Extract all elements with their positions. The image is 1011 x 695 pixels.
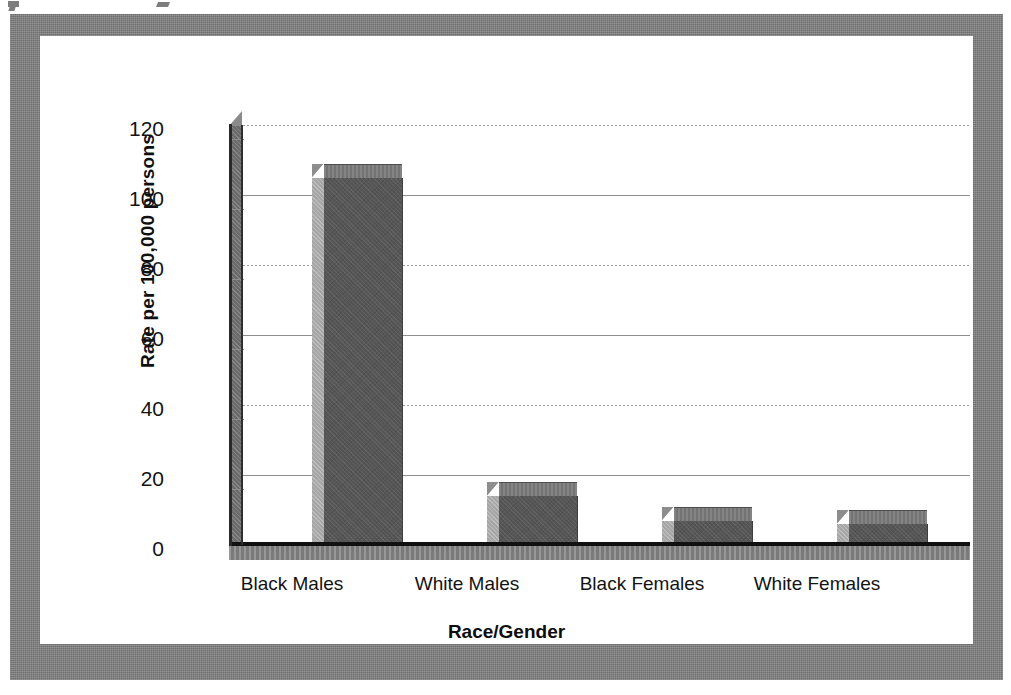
y-tick-label: 40 (110, 398, 164, 419)
bar-white-females[interactable] (849, 36, 927, 545)
bar-front-face (499, 496, 578, 545)
back-wall-left-edge (241, 125, 243, 545)
plot-area (190, 36, 973, 644)
scan-artifact-icon (156, 2, 170, 7)
y-tick-label: 120 (110, 118, 164, 139)
figure-page: Rate per 100,000 persons 0 20 40 60 80 1… (40, 36, 973, 644)
scan-artifacts (0, 0, 1011, 14)
bar-white-males[interactable] (499, 36, 577, 545)
y-axis-tick-labels: 0 20 40 60 80 100 120 (110, 36, 164, 644)
bar-black-males[interactable] (324, 36, 402, 545)
bar-top-face (499, 482, 577, 496)
x-tick-label: White Females (727, 573, 907, 595)
bar-top-face (324, 164, 402, 178)
x-tick-label: White Males (377, 573, 557, 595)
x-tick-label: Black Males (202, 573, 382, 595)
x-axis-line (229, 542, 970, 546)
bar-front-face (324, 178, 403, 546)
y-tick-label: 20 (110, 468, 164, 489)
y-tick-label: 60 (110, 328, 164, 349)
bar-top-face (674, 507, 752, 521)
bar-black-females[interactable] (674, 36, 752, 545)
y-tick-label: 100 (110, 188, 164, 209)
x-axis-tick-labels: Black Males White Males Black Females Wh… (40, 573, 973, 601)
x-axis-title: Race/Gender (40, 621, 973, 643)
bar-side-face (312, 178, 324, 546)
y-tick-label: 80 (110, 258, 164, 279)
y-tick-label: 0 (110, 538, 164, 559)
x-tick-label: Black Females (552, 573, 732, 595)
bar-top-face (849, 510, 927, 524)
scan-artifact-icon (8, 7, 15, 11)
y-axis-line (229, 124, 232, 546)
bar-side-face (487, 496, 499, 545)
bar-chart: Rate per 100,000 persons 0 20 40 60 80 1… (40, 36, 973, 644)
figure-frame: Rate per 100,000 persons 0 20 40 60 80 1… (10, 14, 1003, 680)
plot-floor (229, 545, 970, 560)
